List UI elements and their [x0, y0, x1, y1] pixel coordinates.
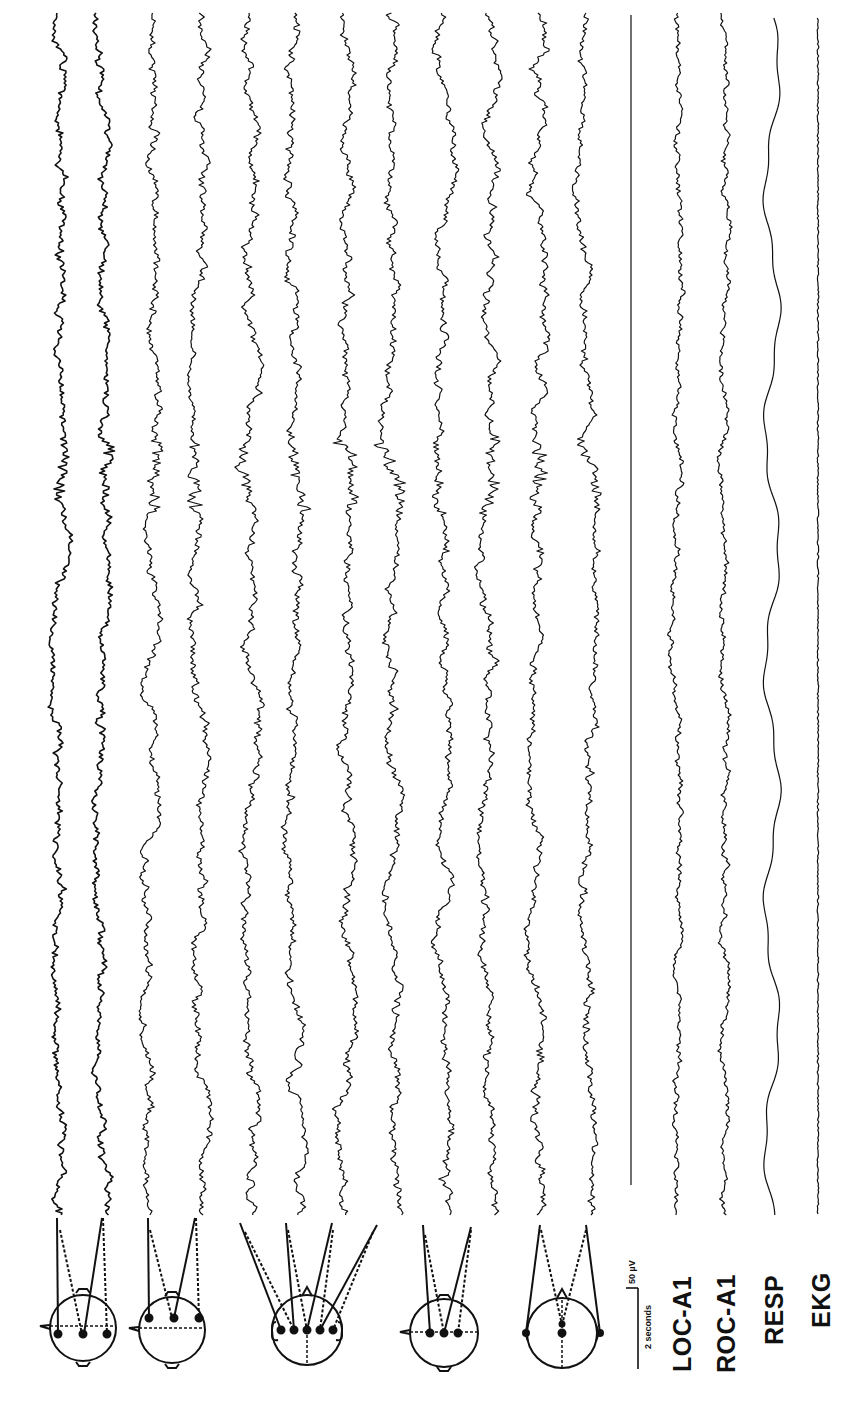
channel-label-ekg: EKG	[807, 1272, 836, 1328]
head-diagram-5-icon	[523, 1225, 603, 1368]
trace-eeg-1	[48, 13, 72, 1215]
scale-time-label: 2 seconds	[643, 1305, 653, 1349]
channel-label-loc: LOC-A1	[668, 1276, 697, 1372]
trace-resp	[763, 18, 781, 1215]
trace-group	[48, 13, 819, 1215]
trace-roc-a1	[717, 13, 732, 1215]
trace-eeg-6	[281, 13, 310, 1215]
trace-eeg-2	[92, 13, 115, 1215]
scale-bar	[626, 1288, 638, 1369]
trace-eeg-3	[139, 13, 163, 1215]
trace-eeg-9	[431, 13, 458, 1215]
head-diagram-4-icon	[400, 1225, 478, 1371]
head-diagram-1-icon	[40, 1218, 116, 1366]
head-diagram-3-icon	[240, 1223, 377, 1365]
trace-eeg-12	[573, 13, 602, 1215]
trace-eeg-11	[524, 13, 550, 1215]
eeg-figure	[0, 0, 846, 1403]
trace-eeg-10	[475, 13, 503, 1215]
trace-ekg	[817, 18, 819, 1214]
trace-eeg-7	[332, 13, 358, 1215]
channel-label-roc: ROC-A1	[712, 1274, 741, 1373]
scale-amplitude-label: 50 µV	[627, 1260, 637, 1284]
head-diagram-2-icon	[129, 1218, 205, 1368]
trace-eeg-4	[187, 13, 213, 1215]
trace-loc-a1	[668, 13, 686, 1215]
trace-eeg-5	[235, 13, 265, 1215]
channel-label-resp: RESP	[760, 1275, 789, 1345]
trace-eeg-8	[374, 13, 405, 1215]
